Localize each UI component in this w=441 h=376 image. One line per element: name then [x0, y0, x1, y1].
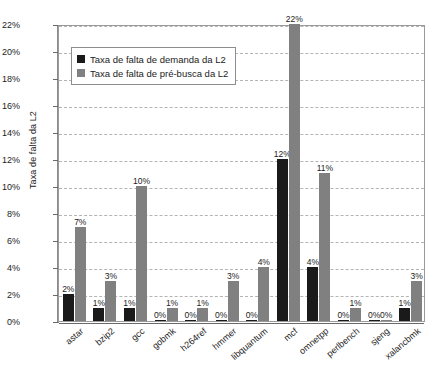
bar-value-label: 7%	[74, 217, 86, 227]
bar-prefetch: 0%	[381, 320, 392, 322]
bar-value-label: 1%	[399, 298, 411, 308]
bar-group: 12%22%	[273, 26, 304, 321]
bar-prefetch: 11%	[319, 173, 330, 322]
bar-prefetch: 3%	[105, 281, 116, 322]
gridline	[59, 323, 424, 324]
legend-swatch-prefetch-icon	[77, 69, 85, 77]
bar-value-label: 4%	[307, 257, 319, 267]
bar-group: 4%11%	[304, 26, 335, 321]
x-axis-label: hmmer	[211, 326, 239, 352]
bar-demand: 4%	[307, 267, 318, 321]
bar-prefetch: 7%	[75, 227, 86, 322]
x-axis-label: sjeng	[369, 326, 392, 347]
legend-item-demand: Taxa de falta de demanda da L2	[77, 52, 228, 66]
bar-prefetch: 22%	[289, 24, 300, 321]
bar-demand: 1%	[399, 308, 410, 322]
y-axis-tick	[53, 322, 58, 323]
bar-prefetch: 3%	[228, 281, 239, 322]
bar-value-label: 3%	[227, 271, 239, 281]
bar-value-label: 0%	[380, 310, 392, 320]
bar-demand: 2%	[63, 294, 74, 321]
bar-value-label: 1%	[123, 298, 135, 308]
bar-group: 0%1%	[334, 26, 365, 321]
chart-legend: Taxa de falta de demanda da L2 Taxa de f…	[71, 47, 236, 85]
legend-item-prefetch: Taxa de falta de pré-busca da L2	[77, 66, 228, 80]
x-axis-label: perlbench	[324, 326, 361, 359]
bar-value-label: 0%	[215, 310, 227, 320]
y-axis-tick-label: 12%	[0, 155, 20, 165]
bar-value-label: 1%	[166, 298, 178, 308]
x-axis-label: mcf	[282, 326, 300, 343]
y-axis-tick-label: 2%	[0, 290, 20, 300]
bar-value-label: 1%	[93, 298, 105, 308]
x-axis-label: h264ref	[178, 326, 208, 353]
bar-demand: 0%	[155, 320, 166, 322]
y-axis-tick-label: 18%	[0, 74, 20, 84]
legend-swatch-demand-icon	[77, 55, 85, 63]
bar-value-label: 3%	[411, 271, 423, 281]
x-axis-label: astar	[64, 326, 86, 347]
bar-demand: 0%	[369, 320, 380, 322]
bar-value-label: 22%	[286, 14, 303, 24]
bar-value-label: 11%	[317, 163, 333, 173]
bar-prefetch: 1%	[350, 308, 361, 322]
y-axis-tick-label: 0%	[0, 317, 20, 327]
bar-value-label: 0%	[368, 310, 380, 320]
x-axis-label: gcc	[130, 326, 147, 343]
bar-prefetch: 1%	[167, 308, 178, 322]
legend-label-demand: Taxa de falta de demanda da L2	[90, 54, 226, 65]
y-axis-tick-label: 4%	[0, 263, 20, 273]
l2-miss-rate-bar-chart: Taxa de falta da L2 0%2%4%6%8%10%12%14%1…	[0, 0, 441, 376]
bar-value-label: 0%	[246, 310, 258, 320]
bar-demand: 1%	[124, 308, 135, 322]
bar-demand: 12%	[277, 159, 288, 321]
bar-prefetch: 1%	[197, 308, 208, 322]
y-axis-tick-label: 16%	[0, 101, 20, 111]
bar-group: 1%3%	[395, 26, 426, 321]
bar-demand: 0%	[338, 320, 349, 322]
bar-demand: 1%	[93, 308, 104, 322]
bar-value-label: 1%	[349, 298, 361, 308]
x-axis-label: bzip2	[93, 326, 116, 347]
bar-prefetch: 10%	[136, 186, 147, 321]
bar-value-label: 4%	[258, 257, 270, 267]
y-axis-tick-label: 22%	[0, 20, 20, 30]
bar-value-label: 0%	[337, 310, 349, 320]
bar-value-label: 10%	[133, 176, 150, 186]
y-axis-tick-label: 20%	[0, 47, 20, 57]
bar-prefetch: 3%	[411, 281, 422, 322]
bar-value-label: 2%	[62, 284, 74, 294]
y-axis-title: Taxa de falta da L2	[28, 70, 38, 230]
bar-value-label: 1%	[196, 298, 208, 308]
bar-value-label: 0%	[154, 310, 166, 320]
bar-demand: 0%	[185, 320, 196, 322]
bar-value-label: 0%	[184, 310, 196, 320]
y-axis-tick-label: 14%	[0, 128, 20, 138]
x-axis-label: gobmk	[150, 326, 177, 351]
legend-label-prefetch: Taxa de falta de pré-busca da L2	[90, 68, 228, 79]
bar-demand: 0%	[246, 320, 257, 322]
y-axis-tick-label: 8%	[0, 209, 20, 219]
bar-group: 0%4%	[243, 26, 274, 321]
y-axis-tick-label: 10%	[0, 182, 20, 192]
bar-demand: 0%	[216, 320, 227, 322]
bar-value-label: 3%	[105, 271, 117, 281]
y-axis-tick-label: 6%	[0, 236, 20, 246]
bar-group: 0%0%	[365, 26, 396, 321]
bar-prefetch: 4%	[258, 267, 269, 321]
